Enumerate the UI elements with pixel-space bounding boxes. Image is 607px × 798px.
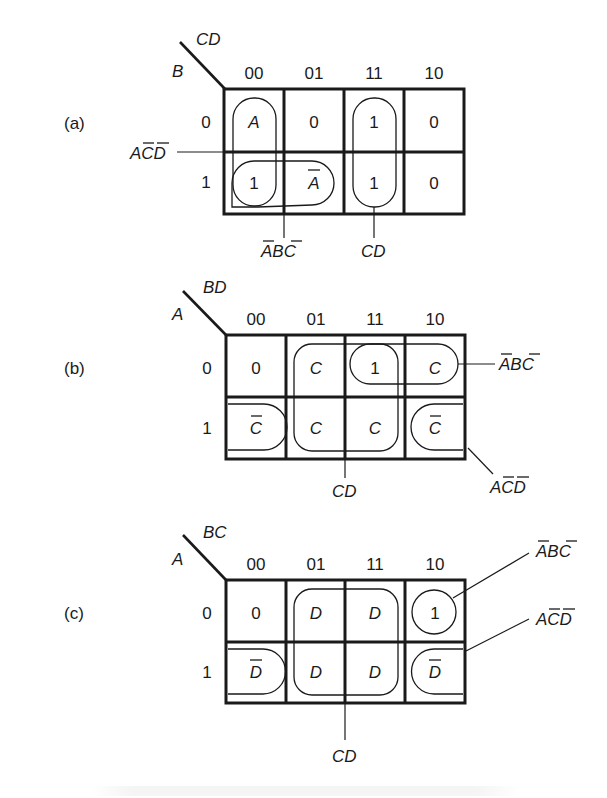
cell-value: 0 (309, 113, 318, 132)
cell-value: A (307, 174, 319, 193)
col-label: 00 (247, 310, 266, 329)
svg-text:ABC: ABC (498, 355, 535, 374)
cell-value: 1 (369, 113, 378, 132)
svg-text:ABC: ABC (535, 542, 572, 561)
cell-value: 1 (369, 174, 378, 193)
col-label: 00 (245, 64, 264, 83)
svg-text:ACD: ACD (129, 144, 166, 163)
col-var-label: BD (203, 278, 227, 297)
group-label-abc: ABC (498, 354, 540, 374)
map-b: (b) BD A 00 01 11 10 0 1 0 C 1 C C C C C… (64, 278, 540, 501)
map-c: (c) BC A 00 01 11 10 0 1 0 D D 1 D D D D… (64, 523, 577, 766)
group-label-abc: ABC (535, 541, 577, 561)
cell-value: D (369, 663, 381, 682)
cell-value: C (429, 419, 442, 438)
cell-value: C (250, 419, 263, 438)
col-var-label: BC (203, 523, 227, 542)
col-label: 11 (366, 310, 384, 329)
col-label: 01 (305, 64, 324, 83)
col-label: 01 (307, 310, 326, 329)
row-label: 0 (202, 359, 211, 378)
row-var-label: B (172, 62, 183, 81)
svg-text:ACD: ACD (535, 610, 572, 629)
cell-value: D (369, 604, 381, 623)
cell-value: D (310, 604, 322, 623)
panel-label-c: (c) (64, 604, 84, 623)
col-label: 10 (426, 310, 445, 329)
map-a: (a) CD B 00 01 11 10 0 1 A 0 1 0 1 A 1 0… (64, 30, 464, 261)
row-label: 0 (201, 113, 210, 132)
col-label: 01 (307, 555, 326, 574)
cell-value: 0 (429, 174, 438, 193)
cell-value: 0 (251, 359, 260, 378)
cell-value: D (310, 663, 322, 682)
row-var-label: A (171, 550, 183, 569)
col-var-label: CD (196, 30, 221, 49)
row-label: 1 (202, 419, 211, 438)
panel-label-a: (a) (64, 114, 85, 133)
cell-value: 1 (249, 174, 258, 193)
row-label: 0 (202, 604, 211, 623)
svg-text:ACD: ACD (489, 478, 526, 497)
cell-value: 0 (429, 113, 438, 132)
cell-value: C (369, 419, 382, 438)
cell-value: D (429, 663, 441, 682)
row-label: 1 (202, 663, 211, 682)
group-label-cd: CD (361, 242, 386, 261)
cut-off-caption (90, 786, 520, 796)
cell-value: C (429, 359, 442, 378)
group-label-abc: ABC (260, 241, 302, 261)
row-label: 1 (201, 173, 210, 192)
corner-diagonal (180, 42, 225, 89)
col-label: 10 (426, 555, 445, 574)
group-label-acd: ACD (535, 609, 575, 629)
panel-label-b: (b) (64, 359, 85, 378)
cell-value: C (310, 359, 323, 378)
cell-value: C (310, 419, 323, 438)
col-label: 00 (247, 555, 266, 574)
cell-value: 0 (251, 604, 260, 623)
group-label-cd: CD (332, 482, 357, 501)
cell-value: 1 (430, 604, 439, 623)
cell-value: 1 (370, 359, 379, 378)
col-label: 10 (425, 64, 444, 83)
cell-value: D (250, 663, 262, 682)
row-var-label: A (171, 305, 183, 324)
corner-diagonal (183, 291, 226, 335)
karnaugh-map-figure: (a) CD B 00 01 11 10 0 1 A 0 1 0 1 A 1 0… (0, 0, 607, 798)
svg-text:ABC: ABC (260, 242, 297, 261)
col-label: 11 (366, 555, 384, 574)
group-label-cd: CD (332, 747, 357, 766)
col-label: 11 (365, 64, 383, 83)
group-label-acd: ACD (129, 143, 169, 163)
cell-value: A (247, 113, 259, 132)
group-label-acd: ACD (489, 477, 529, 497)
